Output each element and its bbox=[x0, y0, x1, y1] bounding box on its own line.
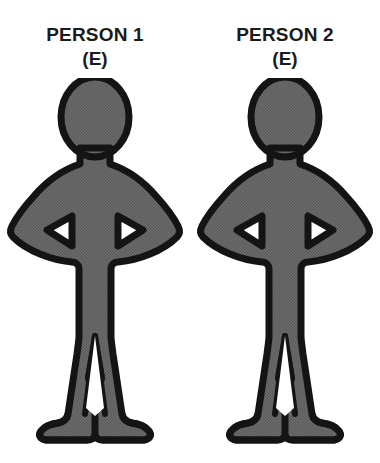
person-code: (E) bbox=[0, 47, 190, 71]
figure-panel-person-2: PERSON 2 (E) bbox=[190, 0, 380, 463]
figure-panel-person-1: PERSON 1 (E) bbox=[0, 0, 190, 463]
figure-label-person-1: PERSON 1 (E) bbox=[0, 24, 190, 71]
person-title: PERSON 2 bbox=[190, 24, 380, 45]
person-code: (E) bbox=[190, 47, 380, 71]
person-standing-akimbo-icon bbox=[0, 78, 190, 444]
figure-label-person-2: PERSON 2 (E) bbox=[190, 24, 380, 71]
diagram-canvas: PERSON 1 (E) bbox=[0, 0, 380, 463]
person-standing-akimbo-icon bbox=[190, 78, 380, 444]
person-figure-graphic-1 bbox=[0, 78, 190, 444]
person-figure-graphic-2 bbox=[190, 78, 380, 444]
person-title: PERSON 1 bbox=[0, 24, 190, 45]
